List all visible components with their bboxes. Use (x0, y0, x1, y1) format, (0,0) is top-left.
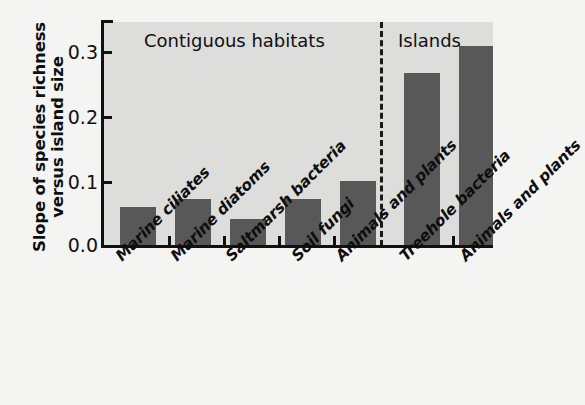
y-tick-label-0.2: 0.2 (56, 106, 98, 128)
x-tick-mark-4 (333, 236, 336, 247)
y-tick-label-0.1: 0.1 (56, 171, 98, 193)
x-tick-mark-5 (452, 236, 455, 247)
y-axis-line (101, 20, 104, 248)
x-tick-mark-2 (223, 236, 226, 247)
group-label-contiguous-habitats: Contiguous habitats (144, 30, 325, 51)
y-tick-mark-0.1 (101, 181, 112, 184)
x-tick-mark-1 (168, 236, 171, 247)
y-axis-tick-labels: 0.3 0.2 0.1 0.0 (46, 0, 98, 405)
x-tick-mark-3 (278, 236, 281, 247)
y-tick-mark-0.2 (101, 116, 112, 119)
bar-animals-and-plants-islands (459, 46, 493, 246)
group-label-islands: Islands (398, 30, 461, 51)
y-tick-label-0.3: 0.3 (56, 41, 98, 63)
y-tick-mark-0.3 (101, 51, 112, 54)
y-tick-label-0.0: 0.0 (56, 234, 98, 256)
y-axis-top-cap (101, 20, 113, 23)
